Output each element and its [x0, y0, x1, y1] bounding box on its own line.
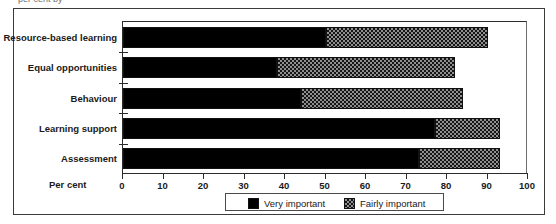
- x-axis-tick-label: 40: [269, 180, 299, 191]
- y-axis-tick: [119, 83, 128, 84]
- plot-area: Resource-based learningEqual opportuniti…: [122, 21, 527, 173]
- x-axis-tick-label: 100: [512, 180, 542, 191]
- y-axis-tick: [119, 52, 128, 53]
- bar-segment-fairly-important: [277, 57, 455, 78]
- x-axis-tick-label: 80: [431, 180, 461, 191]
- bar-segment-fairly-important: [326, 27, 488, 48]
- bar-segment-very-important: [123, 27, 326, 48]
- x-axis-tick: [284, 174, 285, 179]
- x-axis-tick-label: 20: [188, 180, 218, 191]
- y-axis-category-label: Resource-based learning: [0, 27, 123, 48]
- chart-canvas: Resource-based learningEqual opportuniti…: [14, 9, 546, 216]
- y-axis-category-label: Behaviour: [0, 88, 123, 109]
- x-axis-tick: [487, 174, 488, 179]
- x-axis-tick-label: 90: [472, 180, 502, 191]
- clipped-caption-label: per cent by: [18, 0, 138, 4]
- x-axis-tick-label: 50: [310, 180, 340, 191]
- x-axis-tick-label: 70: [391, 180, 421, 191]
- x-axis-tick-label: 30: [229, 180, 259, 191]
- y-axis-tick: [119, 113, 128, 114]
- x-axis-tick: [446, 174, 447, 179]
- x-axis-tick: [203, 174, 204, 179]
- y-axis-category-label: Equal opportunities: [0, 57, 123, 78]
- bar-segment-fairly-important: [435, 118, 500, 139]
- legend-entry-fairly-important: Fairly important: [344, 197, 425, 209]
- bar-row: Equal opportunities: [123, 57, 526, 78]
- legend-label-very-important: Very important: [264, 198, 325, 209]
- x-axis-tick: [527, 174, 528, 179]
- y-axis-category-label: Learning support: [0, 118, 123, 139]
- bar-segment-very-important: [123, 148, 419, 169]
- y-axis-category-label: Assessment: [0, 148, 123, 169]
- bar-row: Behaviour: [123, 88, 526, 109]
- legend-entry-very-important: Very important: [248, 197, 325, 209]
- x-axis: 0102030405060708090100: [122, 173, 528, 174]
- x-axis-tick: [163, 174, 164, 179]
- figure-frame: Resource-based learningEqual opportuniti…: [13, 8, 545, 215]
- x-axis-title: Per cent: [49, 179, 87, 190]
- bar-row: Resource-based learning: [123, 27, 526, 48]
- y-axis-tick: [119, 144, 128, 145]
- x-axis-tick: [244, 174, 245, 179]
- bar-segment-very-important: [123, 57, 277, 78]
- x-axis-tick: [122, 174, 123, 179]
- x-axis-tick: [406, 174, 407, 179]
- bar-segment-fairly-important: [419, 148, 500, 169]
- clipped-caption-text: per cent by: [18, 0, 138, 5]
- legend-swatch-very-important-icon: [248, 198, 259, 209]
- legend-swatch-fairly-important-icon: [344, 198, 355, 209]
- bar-row: Learning support: [123, 118, 526, 139]
- x-axis-tick: [325, 174, 326, 179]
- x-axis-tick: [365, 174, 366, 179]
- bar-segment-very-important: [123, 118, 435, 139]
- legend-label-fairly-important: Fairly important: [360, 198, 425, 209]
- bar-segment-fairly-important: [301, 88, 463, 109]
- x-axis-tick-label: 10: [148, 180, 178, 191]
- bar-segment-very-important: [123, 88, 301, 109]
- bar-row: Assessment: [123, 148, 526, 169]
- chart-legend: Very important Fairly important: [225, 193, 444, 211]
- x-axis-tick-label: 0: [107, 180, 137, 191]
- x-axis-tick-label: 60: [350, 180, 380, 191]
